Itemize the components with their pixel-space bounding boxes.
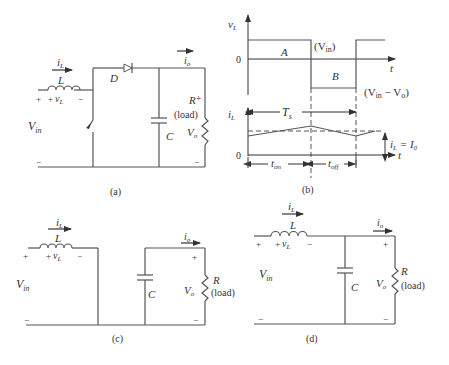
label-R: R [212,274,220,286]
label-t: t [390,62,394,74]
label-iL: iL [288,200,295,214]
minus-sign: − [24,315,29,325]
resistor-icon [202,275,208,301]
label-load: (load) [174,109,198,121]
label-Vin-minus-Vo: (Vin − Vo) [364,86,409,100]
minus-sign: − [258,314,263,324]
label-io: io [377,217,384,230]
minus-sign: − [383,314,388,324]
label-Vin: Vin [28,119,42,135]
plus-sign: + [36,94,41,104]
plus-sign: + [275,239,280,249]
label-vL: vL [282,238,290,251]
label-Vo: Vo [184,284,195,298]
label-B: B [332,70,339,82]
capacitor-icon [151,118,167,123]
label-io: io [184,55,191,68]
diode-icon [124,63,132,73]
label-iL: iL [228,108,235,122]
label-Vin-level: (Vin) [314,40,336,54]
plus-sign: + [23,251,28,261]
label-iL-equals-I0: iL = I0 [390,138,418,152]
caption-b: (b) [302,184,314,196]
panel-b-waveforms: vL 0 t A B (Vin) (Vin − Vo) iL 0 t Ts iL… [228,15,418,196]
label-vL: vL [55,93,63,106]
label-zero: 0 [236,54,241,65]
minus-sign: − [307,239,312,249]
inductor-icon [271,232,307,236]
plus-sign: + [48,94,53,104]
label-A: A [280,46,288,58]
label-vL: vL [53,250,61,263]
inductor-icon [40,244,72,248]
label-D: D [109,72,118,84]
label-load: (load) [211,287,235,299]
resistor-icon [202,118,208,145]
label-R: R⁺ [188,94,202,106]
label-Vo: Vo [187,126,198,140]
label-vL: vL [228,18,237,32]
label-Vin: Vin [259,267,273,283]
label-L: L [57,74,64,86]
label-iL: iL [56,216,63,230]
label-R: R [400,265,408,277]
label-C: C [166,130,174,142]
circuit-figure: iL L + + vL − Vin − D io C [0,0,449,365]
label-io: io [184,231,191,244]
minus-sign: − [78,94,83,104]
label-zero: 0 [236,150,241,161]
plus-sign: + [256,239,261,249]
minus-sign: − [77,251,82,261]
caption-d: (d) [306,333,318,345]
caption-a: (a) [110,186,121,198]
label-load: (load) [401,280,425,292]
capacitor-icon [137,275,153,280]
plus-sign: + [192,252,197,262]
label-Vo: Vo [376,277,387,291]
label-L: L [54,232,61,244]
label-iL: iL [57,56,64,70]
label-t: t [398,149,402,161]
minus-sign: − [193,315,198,325]
minus-sign: − [194,157,199,167]
label-L: L [289,219,296,231]
plus-sign: + [46,251,51,261]
panel-d-switch-off-circuit: iL L + + vL − Vin − C io + R (load) Vo −… [254,200,425,345]
label-C: C [148,288,156,300]
panel-c-switch-on-circuit: iL L + + vL − Vin − C io + R (load) Vo −… [16,216,235,345]
resistor-icon [392,268,398,294]
panel-a-boost-converter: iL L + + vL − Vin − D io C [28,51,208,198]
label-C: C [351,281,359,293]
label-Vin: Vin [16,277,30,293]
plus-sign: + [383,239,388,249]
minus-sign: − [36,157,41,167]
caption-c: (c) [112,333,123,345]
capacitor-icon [337,268,353,273]
